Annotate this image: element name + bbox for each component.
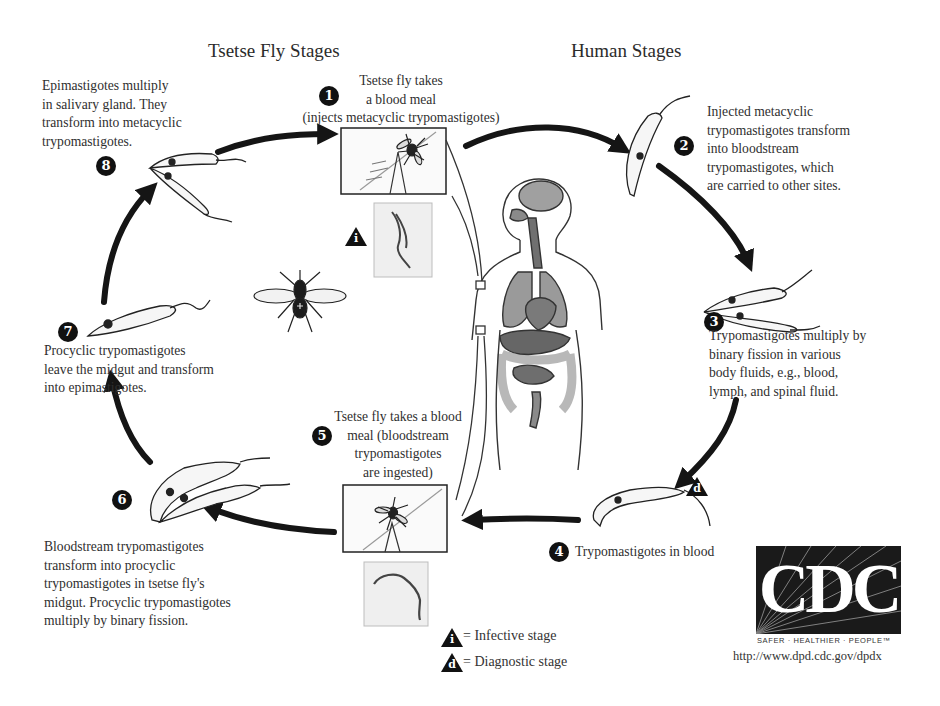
human-body-figure — [472, 179, 602, 470]
stage-6-description: Bloodstream trypomastigotes transform in… — [44, 538, 231, 631]
arrow-7-to-8 — [104, 190, 150, 302]
stage-number-7: 7 — [58, 322, 78, 342]
organism-stage7 — [88, 300, 210, 336]
stage-number-6: 6 — [112, 490, 132, 510]
legend-infective-label: = Infective stage — [463, 628, 556, 644]
arrow-1-to-2 — [466, 127, 622, 148]
cdc-logo-letters: CDC — [756, 552, 901, 626]
heading-human-stages: Human Stages — [571, 40, 681, 62]
cdc-logo: CDC — [756, 546, 901, 634]
heading-tsetse-fly-stages: Tsetse Fly Stages — [208, 40, 340, 62]
arrow-3-to-4 — [682, 400, 736, 482]
stage-5-description: Tsetse fly takes a blood meal (bloodstre… — [318, 408, 478, 482]
arrow-8-to-1 — [218, 134, 328, 152]
arrow-4-to-5 — [472, 519, 578, 521]
cdc-url: http://www.dpd.cdc.gov/dpdx — [733, 649, 882, 664]
legend-diagnostic-label: = Diagnostic stage — [463, 654, 567, 670]
stage-3-description: Trypomastigotes multiply by binary fissi… — [709, 327, 866, 401]
stage-1-description: Tsetse fly takes a blood meal (injects m… — [276, 72, 526, 128]
stage-number-2: 2 — [674, 136, 694, 156]
stage-number-4: 4 — [549, 542, 569, 562]
stage-7-description: Procyclic trypomastigotes leave the midg… — [44, 342, 214, 398]
infective-stage-marker: i — [345, 227, 367, 246]
legend-diagnostic-icon: d — [441, 653, 463, 672]
tsetse-fly-illustration — [254, 270, 346, 332]
arrow-5-to-6 — [210, 508, 334, 532]
sample-site-markers — [476, 281, 485, 334]
stage1-blood-meal-panel — [341, 128, 446, 277]
stage-number-8: 8 — [96, 156, 116, 176]
stage5-blood-meal-panel — [343, 485, 447, 626]
diagnostic-stage-marker: d — [686, 477, 708, 496]
legend-infective-icon: i — [441, 628, 463, 647]
stage-4-description: Trypomastigotes in blood — [575, 543, 714, 562]
stage-2-description: Injected metacyclic trypomastigotes tran… — [707, 103, 850, 196]
organism-stage8 — [150, 154, 246, 222]
stage-8-description: Epimastigotes multiply in salivary gland… — [42, 77, 182, 151]
cdc-tagline: SAFER · HEALTHIER · PEOPLE™ — [757, 636, 891, 645]
